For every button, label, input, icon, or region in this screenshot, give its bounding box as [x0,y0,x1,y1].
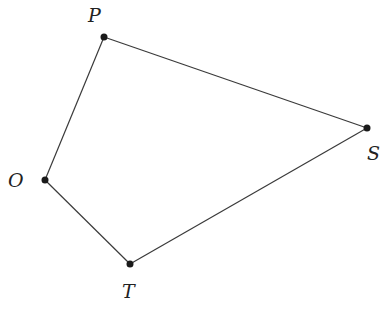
label-O: O [8,169,24,191]
label-P: P [87,4,102,26]
edge-ST [130,128,367,264]
point-T [127,261,134,268]
quadrilateral-diagram: P S T O [0,0,385,310]
edges [45,37,367,264]
point-O [42,177,49,184]
point-P [101,34,108,41]
label-S: S [367,142,380,164]
edge-PS [104,37,367,128]
edge-OP [45,37,104,180]
point-S [364,125,371,132]
label-T: T [122,280,136,302]
edge-TO [45,180,130,264]
